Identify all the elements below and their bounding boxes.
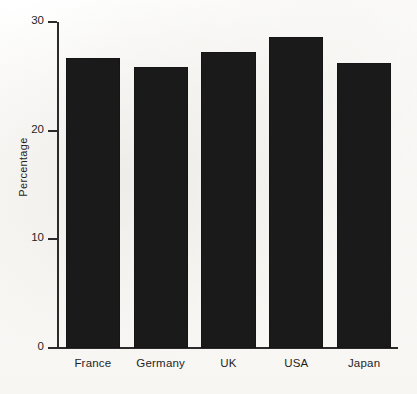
x-label-japan: Japan	[330, 357, 398, 369]
y-tick-mark	[48, 238, 57, 240]
x-label-usa: USA	[262, 357, 330, 369]
bar-slot	[269, 22, 323, 348]
x-label-germany: Germany	[127, 357, 195, 369]
x-label-france: France	[59, 357, 127, 369]
bar-uk[interactable]	[201, 52, 255, 348]
y-tick-mark	[48, 347, 57, 349]
bar-germany[interactable]	[134, 67, 188, 348]
bar-slot	[66, 22, 120, 348]
bar-slot	[201, 22, 255, 348]
y-tick-label: 10	[8, 231, 44, 243]
bar-chart: Percentage 0102030 FranceGermanyUKUSAJap…	[0, 0, 417, 394]
y-tick-mark	[48, 21, 57, 23]
y-tick-label: 0	[8, 340, 44, 352]
bar-slot	[134, 22, 188, 348]
plot-area	[59, 22, 398, 348]
x-label-uk: UK	[195, 357, 263, 369]
bar-japan[interactable]	[337, 63, 391, 348]
y-tick-label: 20	[8, 123, 44, 135]
bar-slot	[337, 22, 391, 348]
y-tick-label: 30	[8, 14, 44, 26]
bar-france[interactable]	[66, 58, 120, 348]
bar-usa[interactable]	[269, 37, 323, 348]
y-tick-mark	[48, 130, 57, 132]
